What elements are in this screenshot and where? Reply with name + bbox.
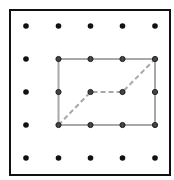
peg-dot [152,122,157,127]
peg-dot [152,56,157,61]
peg-dot [56,56,61,61]
peg-dot [152,89,157,94]
peg-dot [23,89,29,95]
peg-dot [23,155,29,161]
dashed-path [59,59,156,125]
peg-dot [88,23,94,29]
peg-dot [56,122,61,127]
rectangle-outline [59,59,156,125]
peg-dot [23,23,29,29]
peg-dot [56,89,61,94]
peg-dot [120,122,125,127]
peg-dot [120,155,126,161]
peg-dot [56,155,62,161]
dashed-divider-line [59,59,156,125]
peg-dot [152,23,158,29]
peg-grid [23,23,158,161]
peg-dot [120,56,125,61]
peg-dot [120,23,126,29]
peg-dot [88,56,93,61]
peg-dot [23,122,29,128]
peg-dot [152,155,158,161]
peg-dot [120,89,125,94]
peg-dot [88,155,94,161]
peg-dot [88,122,93,127]
peg-dot [88,89,93,94]
rectangle-shape [59,59,156,125]
peg-dot [56,23,62,29]
peg-dot [23,56,29,62]
geoboard-diagram [0,0,174,180]
